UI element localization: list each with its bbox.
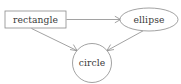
edge-line-rectangle-circle <box>32 29 77 51</box>
circle-node-label: circle <box>79 57 106 68</box>
edge-line-ellipse-circle <box>107 31 143 51</box>
edge-rectangle-to-ellipse[interactable] <box>67 16 121 22</box>
edge-ellipse-to-circle[interactable] <box>107 31 144 51</box>
node-ellipse[interactable]: ellipse <box>120 8 178 31</box>
node-circle[interactable]: circle <box>73 44 112 83</box>
graph-diagram: rectangle ellipse circle <box>0 0 181 84</box>
edge-rectangle-to-circle[interactable] <box>32 29 78 51</box>
ellipse-node-label: ellipse <box>134 14 165 25</box>
rectangle-node-label: rectangle <box>13 14 58 25</box>
node-rectangle[interactable]: rectangle <box>5 11 66 28</box>
diagram-canvas: rectangle ellipse circle <box>0 0 181 84</box>
